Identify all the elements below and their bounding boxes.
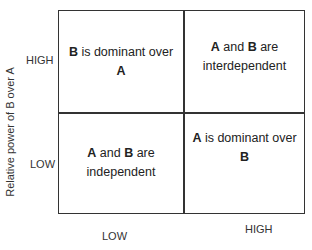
- quadrant-bottom-left: A and B are independent: [59, 113, 183, 213]
- y-axis-label: Relative power of B over A: [4, 67, 16, 197]
- quadrant-top-right: A and B are interdependent: [184, 11, 305, 112]
- x-tick-high: HIGH: [245, 223, 273, 235]
- quadrant-bottom-left-text: A and B are independent: [87, 144, 156, 182]
- quadrant-top-right-text: A and B are interdependent: [203, 38, 286, 76]
- quadrant-top-left: B is dominant over A: [59, 11, 183, 112]
- matrix-grid: B is dominant over A A and B are interde…: [58, 10, 305, 214]
- y-tick-high: HIGH: [26, 54, 54, 66]
- x-tick-low: LOW: [102, 230, 127, 242]
- quadrant-bottom-right: A is dominant over B: [184, 113, 305, 213]
- quadrant-bottom-right-text: A is dominant over B: [188, 129, 301, 167]
- quadrant-top-left-text: B is dominant over A: [63, 43, 179, 81]
- y-tick-low: LOW: [30, 158, 55, 170]
